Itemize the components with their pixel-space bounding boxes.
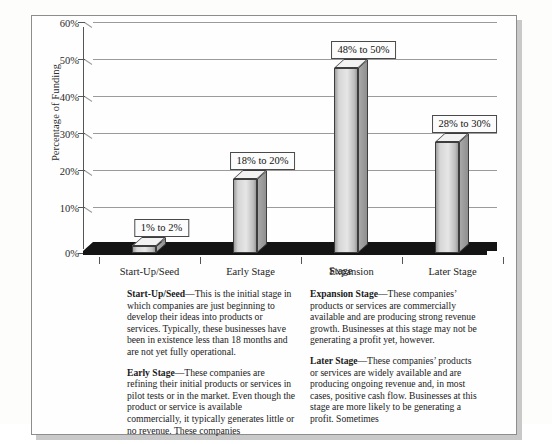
gridline-bevel <box>84 133 92 139</box>
y-axis-tick-label: 40% <box>60 92 79 103</box>
x-axis-tick-label: Early Stage <box>226 266 275 277</box>
definition-term: Start-Up/Seed <box>127 288 185 299</box>
bar-side-face <box>358 59 368 253</box>
em-dash: — <box>358 355 368 366</box>
bar-front-face <box>435 142 459 253</box>
gridline-bevel <box>84 96 92 102</box>
definition-term: Expansion Stage <box>310 288 378 299</box>
data-label: 48% to 50% <box>331 41 397 59</box>
bar-side-face <box>459 133 469 253</box>
y-axis-tick-mark <box>78 170 85 171</box>
bar-front-face <box>233 179 257 253</box>
definition-paragraph: Early Stage—These companies are refining… <box>127 367 296 437</box>
x-axis-tick-mark <box>200 257 201 264</box>
description-text: Start-Up/Seed—This is the initial stage … <box>127 288 479 444</box>
bar <box>435 142 459 253</box>
y-axis-tick-label: 20% <box>60 166 79 177</box>
y-axis-tick-mark <box>78 133 85 134</box>
x-axis-tick-mark <box>99 257 100 264</box>
x-axis-tick-mark <box>301 257 302 264</box>
gridline <box>93 96 497 97</box>
y-axis-tick-label: 50% <box>60 55 79 66</box>
y-axis-tick-mark <box>78 207 85 208</box>
y-axis-line <box>83 27 84 249</box>
x-axis-tick-mark <box>402 257 403 264</box>
bar-front-face <box>132 246 156 253</box>
chart-floor-bevel <box>83 242 93 251</box>
bar-front-face <box>334 68 358 253</box>
definition-paragraph: Start-Up/Seed—This is the initial stage … <box>127 288 296 358</box>
em-dash: — <box>175 367 185 378</box>
y-axis-tick-label: 30% <box>60 129 79 140</box>
y-axis-tick-mark <box>78 59 85 60</box>
definition-term: Later Stage <box>310 355 358 366</box>
data-label: 1% to 2% <box>134 219 189 237</box>
gridline-bevel <box>84 170 92 176</box>
x-axis-tick-label: Later Stage <box>428 266 476 277</box>
bar-chart: Percentage of Funding 0%10%20%30%40%50%6… <box>31 15 517 283</box>
plot-area: 0%10%20%30%40%50%60% 1% to 2%18% to 20%4… <box>93 31 497 253</box>
em-dash: — <box>378 288 388 299</box>
y-axis-tick-label: 60% <box>60 18 79 29</box>
text-column-right: Expansion Stage—These companies’ product… <box>310 288 479 444</box>
data-label: 28% to 30% <box>432 115 498 133</box>
text-column-left: Start-Up/Seed—This is the initial stage … <box>127 288 296 444</box>
bar <box>233 179 257 253</box>
y-axis-tick-mark <box>78 96 85 97</box>
bar <box>132 246 156 253</box>
bar-side-face <box>257 170 267 253</box>
y-axis-tick-label: 0% <box>65 248 79 259</box>
x-axis-tick-label: Start-Up/Seed <box>120 266 180 277</box>
gridline <box>93 133 497 134</box>
x-axis-title: Stage <box>329 265 352 276</box>
x-axis-tick-mark <box>503 257 504 264</box>
gridline-bevel <box>84 59 92 65</box>
definition-paragraph: Later Stage—These companies’ products or… <box>310 355 479 425</box>
definition-term: Early Stage <box>127 367 175 378</box>
bar <box>334 68 358 253</box>
gridline-bevel <box>84 207 92 213</box>
x-axis-ticks: Start-Up/SeedEarly StageExpansionLater S… <box>93 257 497 265</box>
em-dash: — <box>185 288 195 299</box>
gridline-bevel <box>84 22 92 28</box>
gridline <box>93 59 497 60</box>
gridline <box>93 22 497 23</box>
y-axis-tick-label: 10% <box>60 203 79 214</box>
data-label: 18% to 20% <box>230 152 296 170</box>
y-axis-tick-mark <box>78 22 85 23</box>
definition-paragraph: Expansion Stage—These companies’ product… <box>310 288 479 346</box>
